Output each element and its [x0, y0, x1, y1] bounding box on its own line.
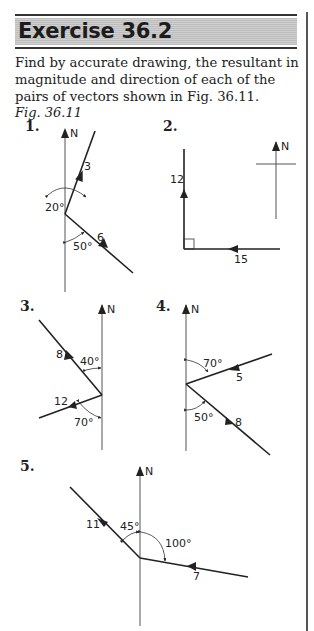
compass-north-arrow-icon [272, 141, 280, 151]
north-label: N [70, 127, 78, 140]
angle-arc-100 [141, 532, 165, 561]
figure-3-diagram: N 8 12 40° 70° [39, 303, 115, 450]
angle-label-50: 50° [194, 411, 214, 424]
angle-label-50: 50° [73, 240, 93, 253]
vector-3-label: 3 [84, 160, 91, 173]
vector-diagrams: N 3 6 20° 50° 12 15 N N 8 12 40 [0, 0, 314, 631]
north-arrow-icon [61, 128, 69, 138]
vector-12-label: 12 [54, 395, 68, 408]
vector-5 [186, 354, 272, 384]
angle-label-45: 45° [120, 520, 140, 533]
angle-arc-50 [187, 401, 205, 410]
vector-8-label: 8 [235, 416, 242, 429]
compass-north-label: N [281, 140, 289, 153]
angle-arc-40 [86, 368, 101, 370]
north-arrow-icon [136, 466, 144, 476]
vector-12-arrow-icon [68, 401, 77, 409]
angle-label-70: 70° [74, 416, 94, 429]
figure-5-diagram: N 11 7 45° 100° [70, 465, 248, 626]
vector-12-arrow-icon [180, 189, 188, 198]
figure-4-diagram: N 5 8 70° 50° [182, 303, 272, 455]
angle-label-20: 20° [45, 201, 65, 214]
angle-arc-45 [123, 532, 139, 540]
vector-7-label: 7 [193, 570, 200, 583]
angle-label-70: 70° [203, 357, 223, 370]
north-label: N [107, 303, 115, 316]
north-label: N [191, 303, 199, 316]
vector-15-arrow-icon [228, 245, 238, 253]
vector-5-label: 5 [236, 371, 243, 384]
north-label: N [145, 465, 153, 478]
right-angle-marker [184, 239, 194, 249]
figure-1-diagram: N 3 6 20° 50° [45, 127, 133, 292]
angle-label-40: 40° [80, 355, 100, 368]
north-arrow-icon [98, 304, 106, 314]
angle-label-100: 100° [165, 537, 192, 550]
vector-8-arrow-icon [225, 417, 233, 425]
vector-6-label: 6 [97, 231, 104, 244]
vector-11-label: 11 [86, 518, 100, 531]
vector-8-label: 8 [56, 348, 63, 361]
angle-arc-20 [48, 188, 86, 197]
vector-15-label: 15 [234, 253, 248, 266]
north-arrow-icon [182, 304, 190, 314]
vector-12-label: 12 [170, 173, 184, 186]
figure-2-diagram: 12 15 N [170, 140, 296, 266]
